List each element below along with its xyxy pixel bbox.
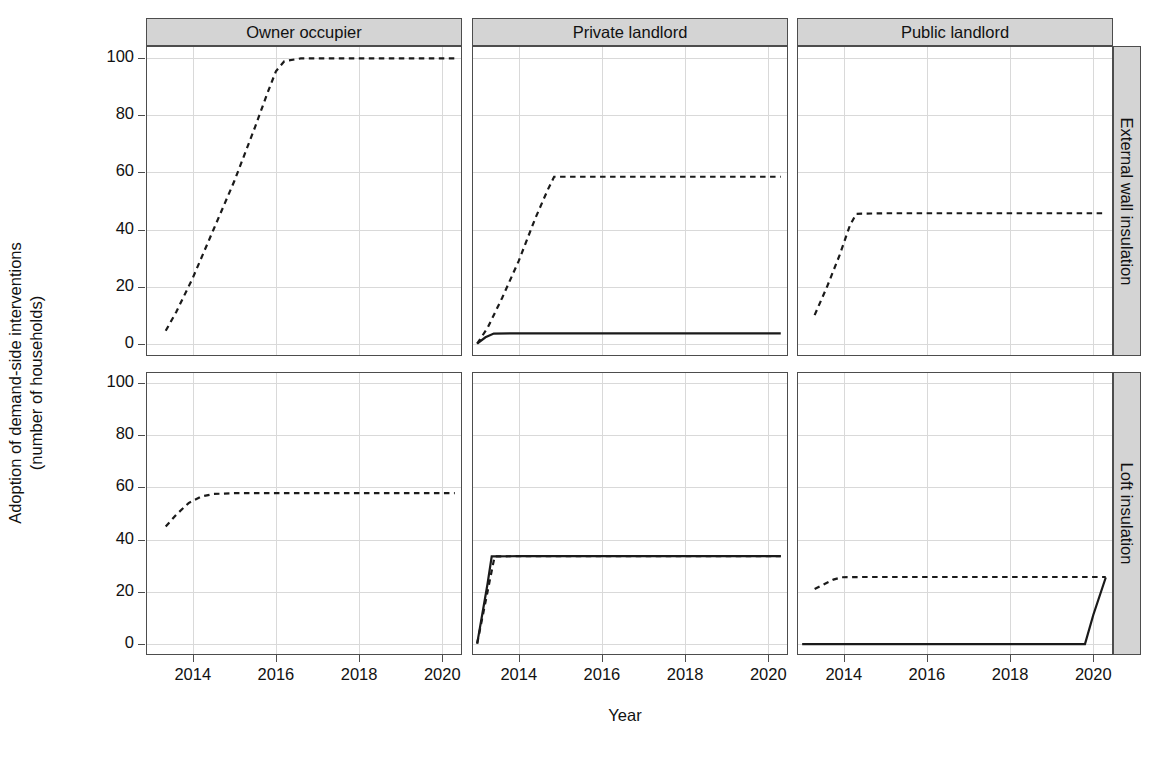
x-tick-mark	[927, 655, 928, 662]
x-tick-mark	[768, 655, 769, 662]
y-axis-title-line1: Adoption of demand-side interventions	[5, 242, 26, 524]
y-axis-title: Adoption of demand-side interventions (n…	[0, 0, 52, 766]
y-tick-mark	[138, 644, 145, 645]
y-tick-label: 0	[60, 333, 134, 352]
x-axis-title: Year	[146, 706, 1104, 725]
x-tick-label: 2016	[258, 665, 295, 684]
panel-owner-occupier-loft-insulation	[146, 372, 462, 655]
x-tick-label: 2014	[825, 665, 862, 684]
y-tick-label: 80	[60, 424, 134, 443]
x-tick-mark	[359, 655, 360, 662]
strip-row-loft-insulation: Loft insulation	[1113, 372, 1141, 655]
x-tick-label: 2016	[909, 665, 946, 684]
strip-col-public-landlord: Public landlord	[797, 18, 1113, 46]
panel-private-landlord-external-wall-insulation	[472, 46, 788, 356]
x-tick-label: 2020	[1075, 665, 1112, 684]
y-tick-label: 40	[60, 219, 134, 238]
x-tick-mark	[442, 655, 443, 662]
x-tick-label: 2018	[992, 665, 1029, 684]
y-tick-mark	[138, 230, 145, 231]
y-tick-mark	[138, 383, 145, 384]
y-tick-mark	[138, 435, 145, 436]
x-tick-mark	[519, 655, 520, 662]
x-tick-mark	[685, 655, 686, 662]
x-tick-mark	[844, 655, 845, 662]
y-tick-mark	[138, 115, 145, 116]
strip-row-external-wall-insulation: External wall insulation	[1113, 46, 1141, 356]
panel-public-landlord-loft-insulation	[797, 372, 1113, 655]
y-tick-label: 100	[60, 47, 134, 66]
y-axis-title-line2: (number of households)	[26, 242, 47, 524]
strip-col-label: Public landlord	[901, 23, 1009, 42]
strip-row-label: Loft insulation	[1118, 463, 1137, 565]
x-tick-mark	[602, 655, 603, 662]
x-tick-mark	[276, 655, 277, 662]
y-tick-label: 0	[60, 633, 134, 652]
y-tick-mark	[138, 58, 145, 59]
y-tick-label: 100	[60, 372, 134, 391]
y-tick-label: 60	[60, 161, 134, 180]
x-tick-label: 2020	[750, 665, 787, 684]
x-tick-label: 2014	[174, 665, 211, 684]
x-tick-mark	[1010, 655, 1011, 662]
y-tick-mark	[138, 287, 145, 288]
y-tick-mark	[138, 540, 145, 541]
y-tick-mark	[138, 487, 145, 488]
y-tick-mark	[138, 172, 145, 173]
x-tick-label: 2014	[500, 665, 537, 684]
y-tick-label: 40	[60, 529, 134, 548]
y-tick-label: 20	[60, 276, 134, 295]
panel-owner-occupier-external-wall-insulation	[146, 46, 462, 356]
x-tick-label: 2016	[584, 665, 621, 684]
y-tick-label: 80	[60, 104, 134, 123]
chart-figure: Adoption of demand-side interventions (n…	[0, 0, 1166, 766]
y-tick-mark	[138, 344, 145, 345]
strip-col-label: Private landlord	[573, 23, 688, 42]
strip-col-label: Owner occupier	[246, 23, 362, 42]
panel-private-landlord-loft-insulation	[472, 372, 788, 655]
y-tick-label: 60	[60, 476, 134, 495]
x-tick-label: 2018	[667, 665, 704, 684]
y-tick-label: 20	[60, 581, 134, 600]
y-tick-mark	[138, 592, 145, 593]
panel-public-landlord-external-wall-insulation	[797, 46, 1113, 356]
x-tick-mark	[193, 655, 194, 662]
x-tick-label: 2018	[341, 665, 378, 684]
strip-row-label: External wall insulation	[1118, 117, 1137, 285]
strip-col-owner-occupier: Owner occupier	[146, 18, 462, 46]
x-tick-label: 2020	[424, 665, 461, 684]
strip-col-private-landlord: Private landlord	[472, 18, 788, 46]
x-tick-mark	[1093, 655, 1094, 662]
